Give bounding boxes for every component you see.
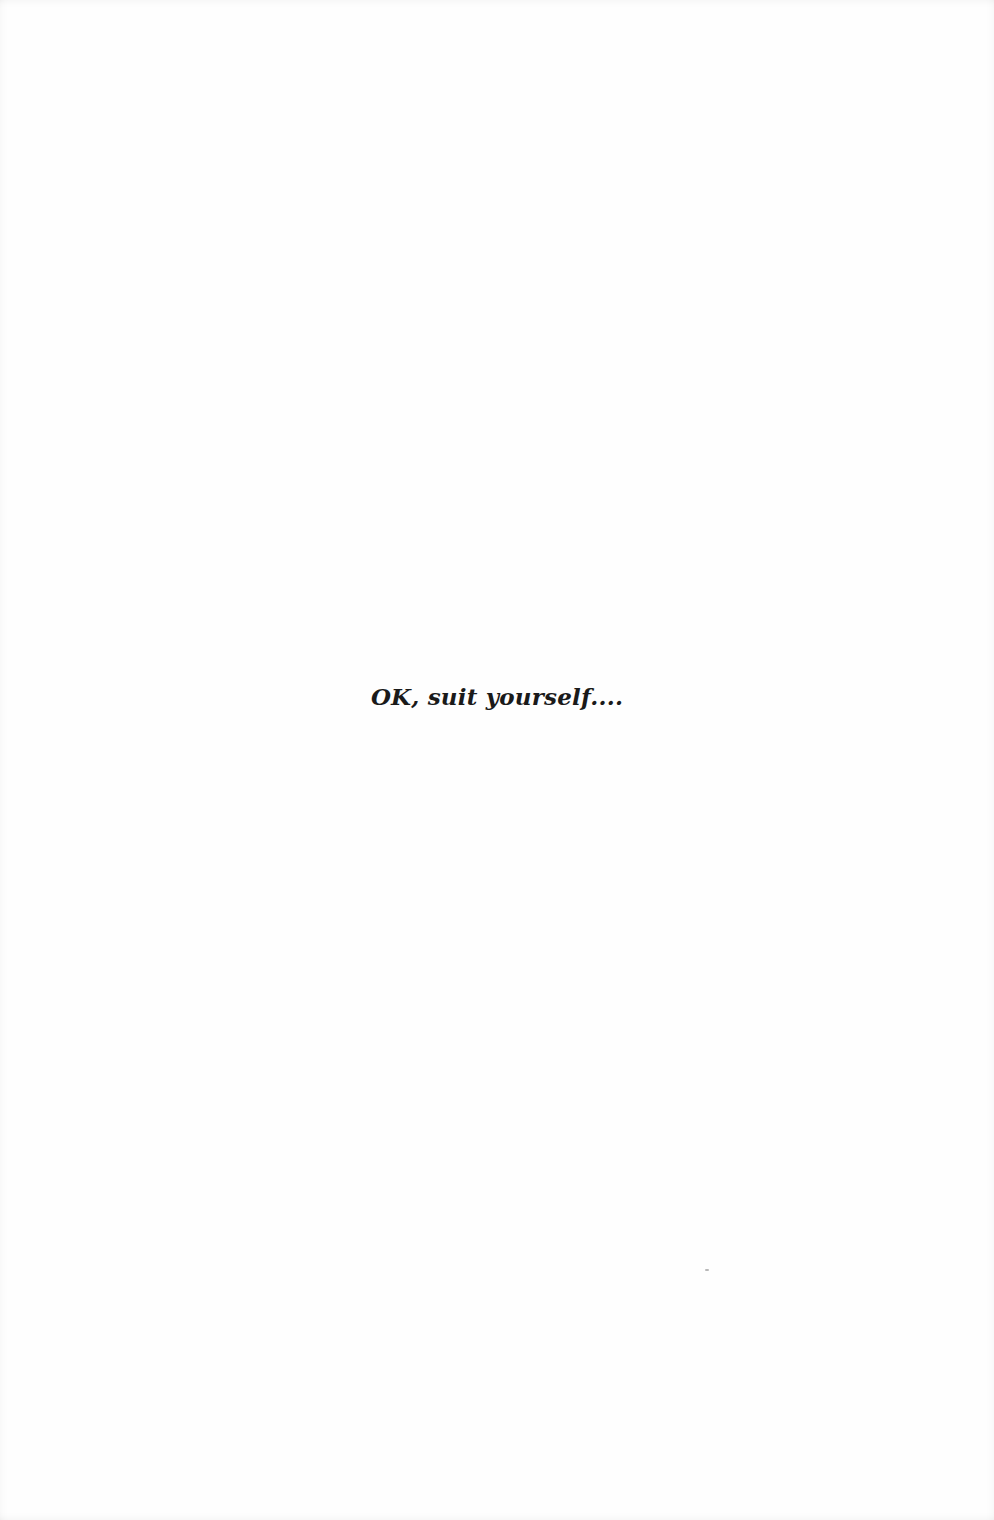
page-text: OK, suit yourself.... — [0, 683, 994, 710]
book-page: OK, suit yourself.... — [0, 0, 994, 1520]
scan-speck — [705, 1269, 709, 1271]
